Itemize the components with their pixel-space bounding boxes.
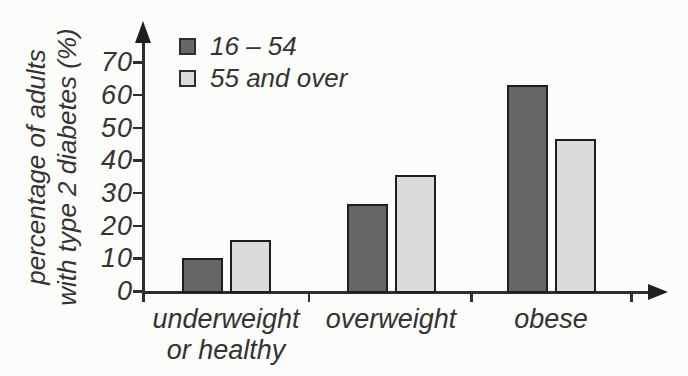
bar-55-and-over-underweight-or-healthy: [230, 240, 271, 293]
y-tick-70: [133, 61, 143, 64]
x-tick-2: [470, 292, 473, 302]
y-tick-label-70: 70: [63, 47, 133, 77]
x-category-label-line: obese: [441, 304, 661, 335]
x-tick-3: [630, 292, 633, 302]
y-tick-0: [133, 290, 143, 293]
y-tick-20: [133, 225, 143, 228]
y-tick-40: [133, 159, 143, 162]
y-tick-30: [133, 192, 143, 195]
x-tick-1: [308, 292, 311, 302]
y-tick-label-40: 40: [63, 145, 133, 175]
y-tick-label-10: 10: [63, 243, 133, 273]
bar-55-and-over-obese: [555, 139, 596, 293]
y-tick-label-0: 0: [63, 276, 133, 306]
y-tick-50: [133, 127, 143, 130]
bar-16-54-overweight: [347, 204, 388, 293]
y-tick-label-50: 50: [63, 113, 133, 143]
type2-diabetes-bar-chart: percentage of adults with type 2 diabete…: [0, 0, 688, 376]
y-tick-label-20: 20: [63, 211, 133, 241]
y-tick-60: [133, 94, 143, 97]
y-tick-10: [133, 257, 143, 260]
x-category-label-line: or healthy: [116, 335, 336, 366]
x-category-label-obese: obese: [441, 304, 661, 335]
bar-55-and-over-overweight: [395, 175, 436, 293]
y-tick-label-60: 60: [63, 80, 133, 110]
plot-area: 010203040506070underweightor healthyover…: [0, 0, 688, 376]
y-tick-label-30: 30: [63, 178, 133, 208]
bar-16-54-underweight-or-healthy: [182, 258, 223, 293]
bar-16-54-obese: [507, 85, 548, 293]
